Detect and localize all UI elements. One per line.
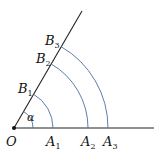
label-B2: B2 <box>35 51 51 68</box>
angle-arcs-diagram: O α A1 A2 A3 B1 B2 B3 <box>0 0 157 150</box>
label-A2: A2 <box>80 134 95 150</box>
label-B3: B3 <box>44 33 60 50</box>
arc-3 <box>61 47 108 128</box>
label-origin: O <box>6 134 17 149</box>
label-A1: A1 <box>45 134 60 150</box>
label-B1: B1 <box>17 81 33 98</box>
arc-1 <box>34 94 54 128</box>
label-A3: A3 <box>102 134 117 150</box>
arc-2 <box>51 64 88 128</box>
origin-point <box>12 126 16 130</box>
label-alpha: α <box>27 111 35 124</box>
inclined-ray <box>14 11 82 128</box>
